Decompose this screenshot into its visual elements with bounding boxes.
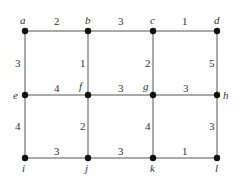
edge-weight: 1 [182, 15, 188, 27]
edge-weight: 3 [209, 120, 215, 132]
edge-weight: 1 [182, 145, 188, 157]
edge-weight: 1 [80, 57, 86, 69]
weighted-grid-graph: 23131254334243331 abcdefghijkl [0, 0, 237, 183]
node-label: k [150, 162, 156, 174]
edge-weight: 3 [118, 15, 124, 27]
node-a [22, 28, 28, 34]
node-label: c [150, 14, 155, 26]
node-g [150, 92, 156, 98]
node-label: e [13, 89, 18, 101]
edge-weight: 3 [15, 57, 21, 69]
edge-weight: 3 [183, 82, 189, 94]
edge-weight: 3 [54, 145, 60, 157]
edge-weight: 2 [145, 57, 151, 69]
edge-weight: 2 [54, 15, 60, 27]
edge-weight: 4 [145, 120, 151, 132]
node-label: g [143, 80, 149, 92]
node-j [85, 155, 91, 161]
edge-weight: 3 [118, 82, 124, 94]
node-c [150, 28, 156, 34]
edge-weight: 2 [80, 120, 86, 132]
node-i [22, 155, 28, 161]
node-b [85, 28, 91, 34]
edge-weights: 23131254334243331 [15, 15, 215, 157]
edge-weight: 4 [15, 120, 21, 132]
node-label: h [223, 89, 229, 101]
node-label: l [215, 162, 218, 174]
node-label: j [83, 162, 88, 174]
edge-weight: 3 [118, 145, 124, 157]
node-f [85, 92, 91, 98]
node-label: i [22, 162, 25, 174]
node-d [214, 28, 220, 34]
node-label: a [20, 14, 26, 26]
edge-weight: 4 [54, 82, 60, 94]
node-k [150, 155, 156, 161]
node-h [214, 92, 220, 98]
node-label: b [85, 14, 91, 26]
node-label: d [214, 14, 220, 26]
edge-weight: 5 [209, 57, 215, 69]
node-l [214, 155, 220, 161]
edges [25, 31, 217, 158]
node-label: f [79, 80, 84, 92]
node-e [22, 92, 28, 98]
